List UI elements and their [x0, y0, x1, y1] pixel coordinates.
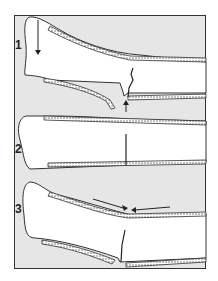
- panel-1-bone: [25, 17, 206, 112]
- panel-3-bone: [23, 182, 206, 267]
- bone-diagram: [0, 0, 218, 281]
- panel-3-label: 3: [15, 202, 22, 216]
- arrow-left-icon: [131, 207, 136, 213]
- panel-1-label: 1: [15, 38, 22, 52]
- panel-2-label: 2: [15, 142, 22, 156]
- arrow-up-icon: [123, 100, 129, 105]
- panel-2-bone: [18, 116, 206, 169]
